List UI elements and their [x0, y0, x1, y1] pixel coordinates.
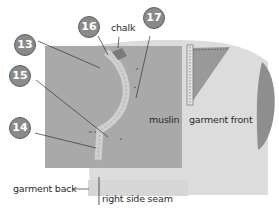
muslin-fitting-diagram: 13 15 14 16 17 chalk muslin garment fron…	[0, 0, 279, 211]
label-garment-front: garment front	[189, 114, 252, 125]
callout-16: 16	[78, 16, 100, 38]
callout-13: 13	[14, 34, 36, 56]
diagram-illustration	[0, 0, 279, 211]
label-chalk: chalk	[111, 22, 135, 33]
callout-15: 15	[9, 65, 31, 87]
label-right-side-seam: right side seam	[102, 193, 173, 204]
label-muslin: muslin	[149, 114, 179, 125]
label-garment-back: garment back	[13, 183, 77, 194]
callout-14: 14	[9, 117, 31, 139]
muslin-swatch	[45, 46, 182, 168]
sleeve	[257, 62, 275, 150]
callout-17: 17	[143, 7, 165, 29]
